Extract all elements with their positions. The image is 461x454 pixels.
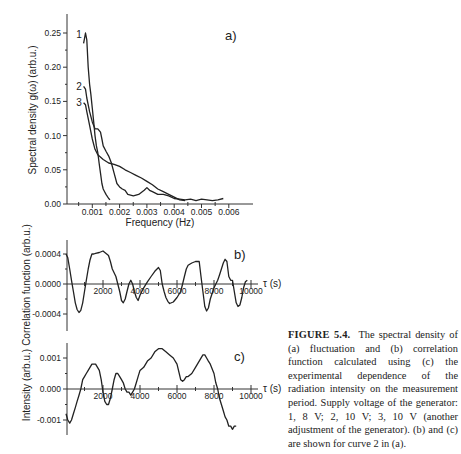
- series-line-3: [84, 103, 186, 201]
- x-tick-label: 6000: [168, 286, 187, 296]
- figure-label: FIGURE 5.4.: [288, 329, 350, 340]
- panel-label: c): [234, 349, 245, 364]
- panel-label: b): [234, 247, 246, 262]
- x-axis-title: τ (s): [263, 383, 281, 394]
- curve-label: 3: [76, 97, 82, 108]
- y-tick-label: 0.20: [44, 62, 61, 72]
- curve-label: 2: [76, 81, 82, 92]
- series-line-2: [84, 86, 224, 200]
- y-axis-title: Spectral density g(ω) (arb.u.): [27, 46, 38, 175]
- y-tick-label: -0.0004: [32, 309, 61, 319]
- x-tick-label: 8000: [205, 391, 224, 401]
- y-tick-label: 0.0000: [35, 279, 61, 289]
- x-tick-label: 0.006: [218, 207, 240, 217]
- panel-a-spectral-density: 0.000.050.100.150.200.250.0010.0020.0030…: [27, 14, 253, 228]
- x-tick-label: 2000: [94, 286, 113, 296]
- x-tick-label: 0.004: [164, 207, 186, 217]
- x-tick-label: 6000: [168, 391, 187, 401]
- panel-c-intensity: -0.0010.0000.001200040006000800010000c)τ…: [21, 343, 281, 435]
- x-tick-label: 0.005: [191, 207, 213, 217]
- y-tick-label: 0.001: [40, 353, 62, 363]
- y-tick-label: 0.15: [44, 96, 61, 106]
- curve-label: 1: [76, 29, 82, 40]
- y-tick-label: 0.000: [40, 384, 62, 394]
- caption-text: The spectral density of (a) fluctuation …: [288, 329, 458, 449]
- y-tick-label: 0.0004: [35, 249, 61, 259]
- y-tick-label: 0.10: [44, 131, 61, 141]
- y-tick-label: -0.001: [37, 415, 61, 425]
- x-tick-label: 0.003: [136, 207, 158, 217]
- y-axis-title: Correlation function (arb.u.): [21, 224, 32, 346]
- series-line-2: [66, 251, 247, 313]
- figure-caption: FIGURE 5.4. The spectral density of (a) …: [288, 328, 458, 450]
- y-tick-label: 0.05: [44, 165, 61, 175]
- x-tick-label: 0.002: [109, 207, 131, 217]
- x-tick-label: 4000: [131, 391, 150, 401]
- x-tick-label: 0.001: [82, 207, 104, 217]
- x-axis-title: τ (s): [263, 278, 281, 289]
- y-tick-label: 0.25: [44, 28, 61, 38]
- x-axis-title: Frequency (Hz): [126, 217, 195, 228]
- panel-b-correlation-function: -0.00040.00000.0004200040006000800010000…: [21, 224, 281, 346]
- x-tick-label: 10000: [239, 391, 263, 401]
- y-axis-title: Intensity (arb.u.): [21, 349, 32, 421]
- panel-label: a): [225, 28, 237, 43]
- y-tick-label: 0.00: [44, 199, 61, 209]
